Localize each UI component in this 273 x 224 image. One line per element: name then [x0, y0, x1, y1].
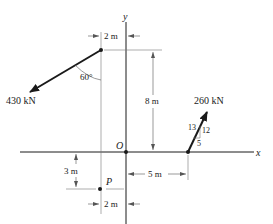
- force-430kn: [30, 48, 103, 92]
- dimension-5m-label: 5 m: [148, 169, 162, 179]
- slope-rise-label: 12: [202, 126, 210, 135]
- slope-hyp-label: 13: [188, 123, 196, 132]
- dimension-3m-label: 3 m: [64, 166, 78, 176]
- dimension-top-2m-label: 2 m: [104, 31, 118, 41]
- origin-label: O: [116, 140, 123, 151]
- force-diagram: y x O 2 m 430 kN 60° 8 m 260 kN 13 12 5: [0, 0, 273, 224]
- dimension-bottom-2m-label: 2 m: [104, 199, 118, 209]
- angle-60-label: 60°: [80, 72, 93, 82]
- x-axis-label: x: [255, 147, 261, 158]
- slope-run-label: 5: [197, 139, 201, 148]
- force-430kn-label: 430 kN: [6, 95, 36, 106]
- point-p: [98, 187, 102, 191]
- point-p-label: P: [105, 176, 112, 187]
- dimension-8m-label: 8 m: [145, 96, 159, 106]
- y-axis-label: y: [122, 11, 128, 22]
- origin-point: [124, 150, 128, 154]
- force-260kn-label: 260 kN: [194, 95, 224, 106]
